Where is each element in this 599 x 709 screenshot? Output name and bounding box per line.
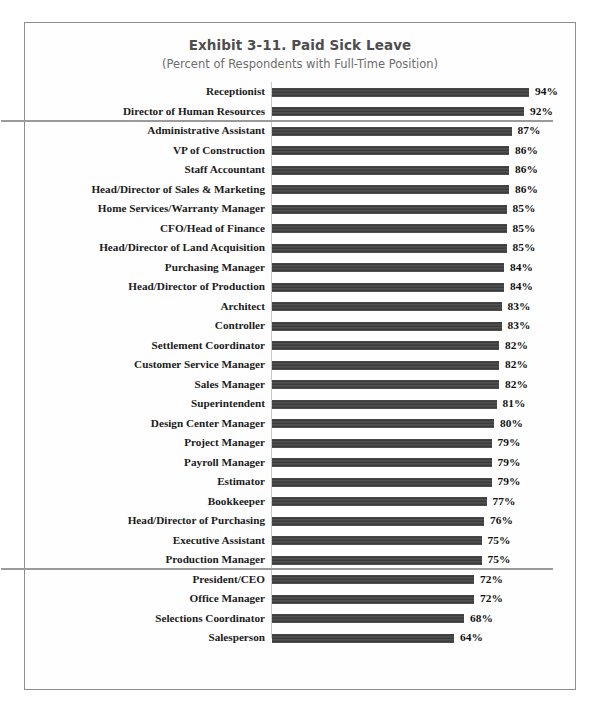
bar [272, 127, 512, 136]
chart-row: Staff Accountant86% [25, 160, 575, 180]
row-label: Estimator [25, 476, 269, 487]
bar-track: 75% [269, 550, 575, 570]
bar [272, 595, 474, 604]
chart-row: President/CEO72% [25, 570, 575, 590]
bar [272, 575, 474, 584]
bar [272, 283, 504, 292]
bar-value-label: 85% [513, 203, 536, 214]
chart-row: Salesperson64% [25, 628, 575, 648]
chart-row: Selections Coordinator68% [25, 609, 575, 629]
bar-track: 82% [269, 375, 575, 395]
chart-row: Office Manager72% [25, 589, 575, 609]
bar-track: 75% [269, 531, 575, 551]
bar [272, 185, 509, 194]
bar [272, 497, 487, 506]
bar-value-label: 75% [488, 554, 511, 565]
bar-track: 83% [269, 316, 575, 336]
bar-value-label: 80% [500, 418, 523, 429]
row-label: Administrative Assistant [25, 125, 269, 136]
bar-value-label: 83% [508, 320, 531, 331]
bar-track: 84% [269, 277, 575, 297]
bar-value-label: 79% [498, 457, 521, 468]
bar [272, 205, 507, 214]
row-label: Bookkeeper [25, 496, 269, 507]
row-label: Customer Service Manager [25, 359, 269, 370]
bar-value-label: 86% [515, 184, 538, 195]
bar-track: 86% [269, 141, 575, 161]
row-label: Production Manager [25, 554, 269, 565]
bar [272, 146, 509, 155]
bar [272, 88, 529, 97]
bar [272, 400, 497, 409]
bar-value-label: 72% [480, 574, 503, 585]
chart-row: Administrative Assistant87% [25, 121, 575, 141]
row-label: Architect [25, 301, 269, 312]
bar-track: 83% [269, 297, 575, 317]
row-label: Salesperson [25, 632, 269, 643]
bar-value-label: 94% [535, 86, 558, 97]
chart-row: Settlement Coordinator82% [25, 336, 575, 356]
row-label: Executive Assistant [25, 535, 269, 546]
bar-track: 94% [269, 82, 575, 102]
row-label: Project Manager [25, 437, 269, 448]
bar-value-label: 81% [503, 398, 526, 409]
bar [272, 458, 492, 467]
row-label: Head/Director of Land Acquisition [25, 242, 269, 253]
chart-row: Director of Human Resources92% [25, 102, 575, 122]
bar-track: 87% [269, 121, 575, 141]
chart-title: Exhibit 3-11. Paid Sick Leave [25, 37, 575, 54]
chart-row: Superintendent81% [25, 394, 575, 414]
bar-track: 85% [269, 199, 575, 219]
bar-value-label: 79% [498, 437, 521, 448]
chart-subtitle: (Percent of Respondents with Full-Time P… [25, 57, 575, 71]
chart-row: Architect83% [25, 297, 575, 317]
row-label: Staff Accountant [25, 164, 269, 175]
bar-track: 72% [269, 589, 575, 609]
row-label: Director of Human Resources [25, 106, 269, 117]
bar [272, 419, 494, 428]
bar-track: 77% [269, 492, 575, 512]
bar-track: 84% [269, 258, 575, 278]
bar-value-label: 82% [505, 359, 528, 370]
bar-value-label: 85% [513, 242, 536, 253]
row-label: Head/Director of Production [25, 281, 269, 292]
bar-track: 79% [269, 453, 575, 473]
bar-value-label: 84% [510, 281, 533, 292]
bar [272, 361, 499, 370]
bar-track: 76% [269, 511, 575, 531]
chart-row: CFO/Head of Finance85% [25, 219, 575, 239]
bar-track: 86% [269, 180, 575, 200]
chart-row: Head/Director of Land Acquisition85% [25, 238, 575, 258]
bar [272, 224, 507, 233]
chart-row: Design Center Manager80% [25, 414, 575, 434]
bar [272, 341, 499, 350]
bar [272, 166, 509, 175]
bar [272, 478, 492, 487]
bar-track: 80% [269, 414, 575, 434]
bar-value-label: 68% [470, 613, 493, 624]
bar-track: 82% [269, 355, 575, 375]
chart-row: Head/Director of Sales & Marketing86% [25, 180, 575, 200]
bar-track: 64% [269, 628, 575, 648]
chart-row: Purchasing Manager84% [25, 258, 575, 278]
bar [272, 517, 484, 526]
chart-row: Receptionist94% [25, 82, 575, 102]
bar-value-label: 82% [505, 379, 528, 390]
row-label: Settlement Coordinator [25, 340, 269, 351]
row-label: Head/Director of Sales & Marketing [25, 184, 269, 195]
chart-row: Bookkeeper77% [25, 492, 575, 512]
bar-rows-container: Receptionist94%Director of Human Resourc… [25, 82, 575, 648]
bar-track: 86% [269, 160, 575, 180]
chart-frame: Exhibit 3-11. Paid Sick Leave (Percent o… [24, 22, 576, 690]
bar-value-label: 76% [490, 515, 513, 526]
bar-value-label: 82% [505, 340, 528, 351]
row-label: Home Services/Warranty Manager [25, 203, 269, 214]
bar-track: 92% [269, 102, 575, 122]
bar [272, 536, 482, 545]
row-label: CFO/Head of Finance [25, 223, 269, 234]
bar-value-label: 86% [515, 164, 538, 175]
row-label: Sales Manager [25, 379, 269, 390]
bar-track: 85% [269, 219, 575, 239]
bar [272, 380, 499, 389]
bar-track: 79% [269, 433, 575, 453]
